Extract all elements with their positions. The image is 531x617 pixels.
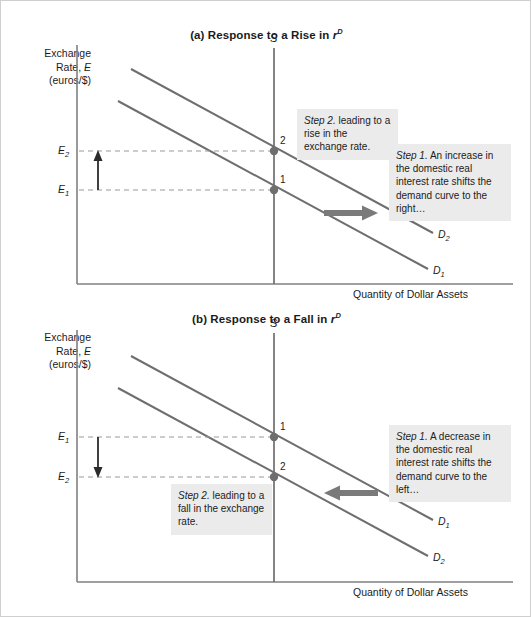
- panel-a-tick-label-e1: E1: [58, 183, 69, 198]
- panel-b-fall: (b) Response to a Fall in rD Exchange Ra…: [1, 297, 531, 617]
- panel-a-rise: (a) Response to a Rise in rD Exchange Ra…: [1, 1, 531, 309]
- panel-a-equilibrium-point-2: [270, 147, 278, 155]
- panel-b-step2-callout: Step 2. leading to a fall in the exchang…: [171, 484, 272, 535]
- panel-b-step1-emphasis: Step 1.: [396, 431, 428, 442]
- panel-a-point-label-1: 1: [280, 174, 286, 185]
- panel-a-supply-label: S: [270, 32, 277, 44]
- panel-b-demand-curve-d2: [118, 388, 428, 556]
- panel-a-demand-shift-arrow: [324, 206, 378, 221]
- panel-b-price-fall-arrow: [94, 437, 103, 478]
- panel-b-supply-label: S: [270, 317, 277, 329]
- panel-b-step1-callout: Step 1. A decrease in the domestic real …: [389, 425, 511, 502]
- panel-a-step2-emphasis: Step 2.: [304, 115, 336, 126]
- panel-a-tick-label-e2: E2: [58, 144, 69, 159]
- figure-container: (a) Response to a Rise in rD Exchange Ra…: [0, 0, 531, 617]
- panel-a-step2-callout: Step 2. leading to a rise in the exchang…: [297, 109, 398, 160]
- panel-b-tick-label-e1: E1: [58, 430, 69, 445]
- panel-a-step1-callout: Step 1. An increase in the domestic real…: [389, 144, 511, 221]
- panel-b-equilibrium-point-2: [270, 473, 278, 481]
- panel-a-curve-label-d1: D1: [433, 264, 445, 279]
- panel-b-curve-label-d1: D1: [438, 515, 450, 530]
- panel-b-step2-emphasis: Step 2.: [178, 490, 210, 501]
- panel-b-equilibrium-point-1: [270, 433, 278, 441]
- panel-a-curve-label-d2: D2: [438, 228, 450, 243]
- panel-b-point-label-1: 1: [280, 421, 286, 432]
- panel-b-curve-label-d2: D2: [433, 551, 445, 566]
- panel-a-step1-emphasis: Step 1.: [396, 150, 428, 161]
- panel-b-demand-shift-arrow: [324, 486, 378, 501]
- panel-a-equilibrium-point-1: [270, 186, 278, 194]
- panel-b-x-axis-label: Quantity of Dollar Assets: [353, 586, 468, 598]
- panel-b-point-label-2: 2: [280, 461, 286, 472]
- panel-b-tick-label-e2: E2: [58, 470, 69, 485]
- panel-a-price-rise-arrow: [94, 150, 103, 190]
- panel-a-point-label-2: 2: [280, 135, 286, 146]
